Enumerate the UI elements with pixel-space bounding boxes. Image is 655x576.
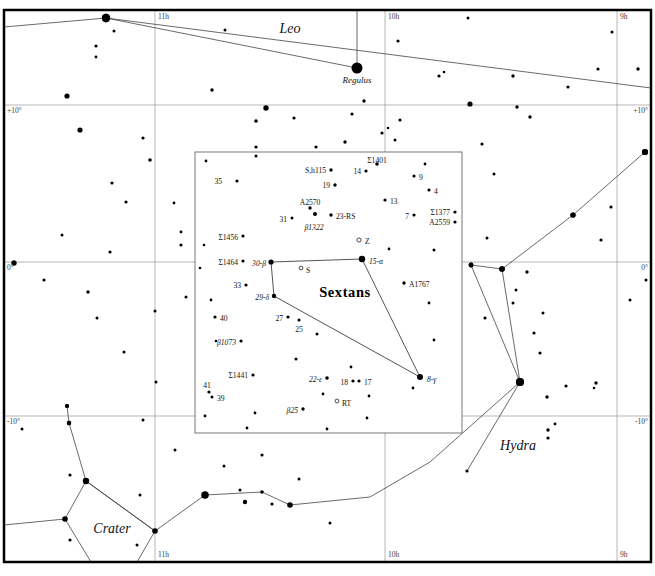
inset-star-label-13: Σ1377 bbox=[430, 208, 450, 217]
background-star-47 bbox=[437, 74, 440, 77]
figure-star-crater-n3 bbox=[83, 478, 89, 484]
background-star-59 bbox=[387, 127, 390, 130]
background-star-54 bbox=[467, 101, 472, 106]
inset-star-dot-30 bbox=[211, 396, 214, 399]
background-star-6 bbox=[210, 88, 213, 91]
grid-label-ra-bottom-10h: 10h bbox=[388, 550, 400, 559]
grid-label-dec-right--10°: -10° bbox=[635, 417, 648, 426]
inset-field-star-10 bbox=[295, 358, 298, 361]
background-star-84 bbox=[538, 351, 541, 354]
background-star-13 bbox=[148, 158, 152, 162]
background-star-36 bbox=[223, 465, 226, 468]
background-star-21 bbox=[108, 250, 111, 253]
inset-star-dot-16 bbox=[241, 234, 244, 237]
inset-star-dot-20 bbox=[268, 259, 273, 264]
background-star-61 bbox=[394, 139, 397, 142]
inset-star-dot-36 bbox=[301, 407, 304, 410]
figure-star-hydra-c2 bbox=[469, 263, 474, 268]
inset-star-group-3: Σ1401 bbox=[367, 156, 387, 166]
background-star-25 bbox=[96, 317, 99, 320]
inset-field-star-4 bbox=[388, 248, 391, 251]
figure-star-hydra-w3 bbox=[243, 500, 247, 504]
inset-star-label-36: β25 bbox=[286, 406, 299, 415]
figure-star-hydra-c1 bbox=[499, 266, 505, 272]
constellation-name-sextans: Sextans bbox=[319, 284, 371, 300]
background-star-48 bbox=[443, 71, 446, 74]
background-star-88 bbox=[350, 112, 353, 115]
background-star-83 bbox=[465, 469, 468, 472]
inset-star-dot-10 bbox=[313, 212, 317, 216]
inset-star-label-11: 23-RS bbox=[336, 212, 355, 221]
inset-star-dot-31 bbox=[325, 376, 329, 380]
background-star-1 bbox=[113, 30, 116, 33]
inset-field-star-12 bbox=[428, 302, 431, 305]
background-star-23 bbox=[42, 278, 45, 281]
inset-star-dot-34 bbox=[417, 374, 423, 380]
inset-star-dot-33 bbox=[357, 379, 360, 382]
figure-star-hydra-n2 bbox=[642, 149, 648, 155]
inset-field-star-20 bbox=[246, 427, 249, 430]
figure-star-regulus bbox=[352, 63, 363, 74]
inset-star-label-5: 4 bbox=[434, 187, 438, 196]
inset-star-label-25: 27 bbox=[275, 314, 283, 323]
background-star-55 bbox=[515, 105, 518, 108]
inset-field-star-6 bbox=[203, 244, 206, 247]
background-star-45 bbox=[139, 494, 142, 497]
inset-star-dot-0 bbox=[235, 179, 238, 182]
figure-star-crater-n4 bbox=[62, 516, 68, 522]
background-star-20 bbox=[180, 231, 183, 234]
grid-label-ra-top-11h: 11h bbox=[158, 12, 169, 21]
grid-label-dec-left-0°: 0° bbox=[7, 263, 14, 272]
inset-field-star-1 bbox=[255, 155, 258, 158]
background-star-15 bbox=[124, 200, 127, 203]
inset-star-dot-4 bbox=[412, 174, 415, 177]
grid-label-ra-bottom-9h: 9h bbox=[620, 550, 628, 559]
figure-star-hydra-w1 bbox=[201, 491, 209, 499]
figure-star-crater-n5 bbox=[152, 528, 158, 534]
grid-label-dec-left--10°: -10° bbox=[7, 417, 20, 426]
background-star-10 bbox=[141, 136, 144, 139]
background-star-38 bbox=[298, 478, 301, 481]
inset-field-star-5 bbox=[433, 249, 436, 252]
inset-star-dot-26 bbox=[298, 319, 301, 322]
inset-star-dot-9 bbox=[291, 217, 294, 220]
background-star-50 bbox=[596, 67, 599, 70]
inset-field-star-16 bbox=[322, 393, 325, 396]
inset-star-dot-32 bbox=[351, 379, 354, 382]
grid-label-dec-left-+10°: +10° bbox=[7, 106, 22, 115]
inset-star-label-27: β1073 bbox=[216, 338, 236, 347]
inset-star-dot-23 bbox=[402, 281, 405, 284]
inset-field-star-17 bbox=[254, 412, 257, 415]
background-star-65 bbox=[486, 237, 489, 240]
background-star-90 bbox=[467, 17, 470, 20]
inset-field-star-9 bbox=[316, 333, 319, 336]
background-star-7 bbox=[263, 105, 268, 110]
star-name-regulus: Regulus bbox=[342, 75, 372, 85]
inset-star-dot-12 bbox=[412, 213, 415, 216]
inset-star-label-7: 13 bbox=[390, 197, 398, 206]
background-star-79 bbox=[545, 395, 548, 398]
figure-star-hydra-w4 bbox=[287, 502, 293, 508]
grid-label-ra-bottom-11h: 11h bbox=[158, 550, 169, 559]
inset-star-dot-21 bbox=[359, 256, 365, 262]
background-star-89 bbox=[343, 140, 346, 143]
grid-label-dec-right-0°: 0° bbox=[641, 263, 648, 272]
background-star-41 bbox=[68, 538, 71, 541]
background-star-87 bbox=[629, 299, 632, 302]
star-chart: Sextans, the Sextant 35S,h11514Σ14019419… bbox=[0, 0, 655, 576]
background-star-39 bbox=[68, 473, 71, 476]
inset-star-dot-28 bbox=[251, 373, 254, 376]
inset-star-label-10: β1322 bbox=[304, 223, 324, 232]
figure-star-hydra-w2 bbox=[260, 490, 264, 494]
inset-star-dot-24 bbox=[272, 294, 276, 298]
background-star-81 bbox=[554, 423, 557, 426]
background-star-82 bbox=[546, 436, 549, 439]
inset-star-label-2: 14 bbox=[353, 167, 361, 176]
inset-star-dot-25 bbox=[286, 315, 289, 318]
background-star-72 bbox=[483, 316, 486, 319]
inset-star-label-34: 8-γ bbox=[427, 375, 437, 384]
inset-star-label-16: Σ1456 bbox=[218, 233, 238, 242]
inset-field-star-2 bbox=[314, 145, 317, 148]
inset-field-star-8 bbox=[210, 299, 213, 302]
background-star-91 bbox=[611, 31, 614, 34]
